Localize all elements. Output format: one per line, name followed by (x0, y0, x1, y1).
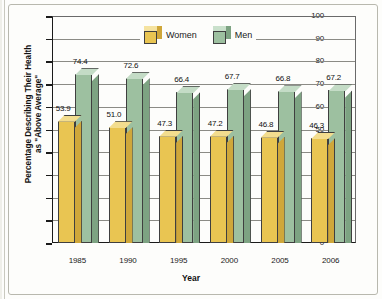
bar-women-2006 (311, 138, 328, 243)
value-label-men-1985: 74.4 (73, 57, 88, 66)
bar-women-1985 (58, 121, 75, 243)
bar-front-face (311, 138, 328, 243)
y-axis-title: Percentage Describing Their Health as "A… (24, 14, 44, 214)
bar-side-face (75, 121, 82, 243)
bar-front-face (159, 136, 176, 243)
value-label-women-2006: 46.3 (309, 121, 324, 130)
bar-front-face (109, 127, 126, 243)
scan-edge-inner (4, 0, 5, 299)
bar-front-face (58, 121, 75, 243)
value-label-men-2005: 66.8 (276, 74, 291, 83)
legend-label-women: Women (166, 30, 197, 40)
x-axis-title: Year (0, 273, 382, 283)
x-tick-label: 2005 (260, 256, 300, 265)
value-label-men-1995: 66.4 (174, 75, 189, 84)
bar-side-face (328, 138, 335, 243)
value-label-women-1985: 53.9 (56, 104, 71, 113)
bar-side-face (227, 136, 234, 243)
bar-women-2000 (210, 136, 227, 243)
bar-women-2005 (261, 137, 278, 243)
value-label-women-1995: 47.3 (157, 119, 172, 128)
legend-item-women[interactable]: Women (144, 26, 197, 44)
x-tick-label: 2000 (209, 256, 249, 265)
value-label-men-2006: 67.2 (326, 73, 341, 82)
bar-side-face (92, 74, 99, 243)
y-tick-mark (46, 243, 52, 245)
bar-side-face (295, 91, 302, 243)
bar-side-face (345, 90, 352, 243)
value-label-women-2005: 46.8 (259, 120, 274, 129)
x-tick-label: 1995 (159, 256, 199, 265)
value-label-women-1990: 51.0 (107, 110, 122, 119)
bar-side-face (278, 137, 285, 243)
chart-figure: Percentage Describing Their Health as "A… (0, 0, 382, 299)
cube-icon-women (144, 26, 161, 44)
bar-front-face (261, 137, 278, 243)
bar-side-face (126, 127, 133, 243)
x-tick-label: 1985 (57, 256, 97, 265)
x-tick-label: 2006 (311, 256, 351, 265)
value-label-women-2000: 47.2 (208, 119, 223, 128)
cube-icon-men (213, 26, 230, 44)
bar-side-face (193, 92, 200, 243)
bar-side-face (143, 78, 150, 243)
bar-women-1990 (109, 127, 126, 243)
legend-label-men: Men (235, 30, 253, 40)
bar-side-face (244, 89, 251, 243)
value-label-men-1990: 72.6 (124, 61, 139, 70)
value-label-men-2000: 67.7 (225, 72, 240, 81)
bar-front-face (210, 136, 227, 243)
x-tick-label: 1990 (108, 256, 148, 265)
y-axis-title-line2: as "Above Average" (34, 75, 43, 153)
chart-legend: Women Men (140, 26, 256, 44)
legend-item-men[interactable]: Men (213, 26, 253, 44)
bar-women-1995 (159, 136, 176, 243)
scan-edge-outer (0, 0, 2, 299)
bar-side-face (176, 136, 183, 243)
y-axis-title-line1: Percentage Describing Their Health (24, 45, 33, 183)
